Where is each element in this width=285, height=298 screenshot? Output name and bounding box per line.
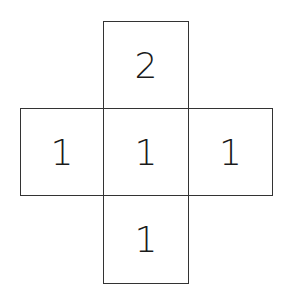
face-top: 2 — [103, 21, 189, 109]
face-center: 1 — [103, 108, 189, 196]
face-bottom: 1 — [103, 195, 189, 284]
face-middle-right: 1 — [188, 108, 273, 196]
face-bottom-value: 1 — [135, 219, 158, 260]
face-middle-left: 1 — [20, 108, 104, 196]
face-center-value: 1 — [135, 132, 158, 173]
face-top-value: 2 — [135, 45, 158, 86]
face-middle-left-value: 1 — [51, 132, 74, 173]
face-middle-right-value: 1 — [219, 132, 242, 173]
